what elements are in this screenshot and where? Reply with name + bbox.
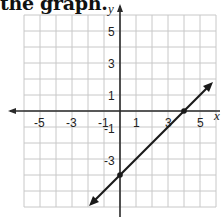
svg-text:-5: -5 <box>34 116 45 130</box>
x-axis-label: x <box>213 108 220 123</box>
y-axis-label: y <box>106 1 114 16</box>
x-axis-left-arrow-icon <box>8 108 16 114</box>
y-axis-up-arrow-icon <box>117 4 123 12</box>
svg-text:-3: -3 <box>104 154 115 168</box>
svg-text:-1: -1 <box>104 122 115 136</box>
x-tick-labels: -5 -3 -1 1 3 5 <box>34 116 204 130</box>
y-intercept-point <box>117 172 123 178</box>
svg-text:3: 3 <box>108 57 115 71</box>
svg-text:1: 1 <box>133 116 140 130</box>
y-tick-labels: 5 3 1 -1 -3 <box>104 25 115 168</box>
svg-text:1: 1 <box>108 89 115 103</box>
coordinate-plane: x y -5 -3 -1 1 3 5 5 3 1 -1 -3 <box>0 0 224 217</box>
svg-text:5: 5 <box>197 116 204 130</box>
svg-text:-3: -3 <box>66 116 77 130</box>
svg-text:5: 5 <box>108 25 115 39</box>
x-intercept-point <box>181 108 187 114</box>
